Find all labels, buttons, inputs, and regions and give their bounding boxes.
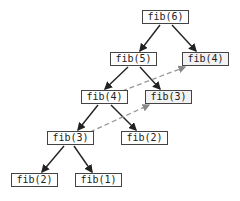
node-n4r: fib(4)	[182, 52, 229, 66]
node-n4l: fib(4)	[81, 90, 128, 104]
edge-fib5-fib3	[140, 67, 160, 89]
edge-fib6-fib5	[140, 25, 160, 51]
node-n5: fib(5)	[110, 52, 157, 66]
edge-fib3-fib1	[74, 146, 92, 172]
node-n2b: fib(2)	[11, 173, 58, 187]
node-n3l: fib(3)	[47, 131, 94, 145]
node-n6: fib(6)	[142, 10, 189, 24]
edge-fib5-fib4	[105, 67, 128, 89]
memo-edge-fib3	[90, 105, 149, 132]
edge-fib6-fib4	[172, 25, 196, 51]
memo-edge-fib4	[122, 67, 185, 91]
node-n3r: fib(3)	[145, 90, 192, 104]
node-n1: fib(1)	[75, 173, 122, 187]
edge-fib4-fib2	[111, 105, 136, 130]
edge-fib3-fib2	[42, 146, 64, 172]
node-n2m: fib(2)	[121, 131, 168, 145]
edge-fib4-fib3	[78, 105, 98, 130]
